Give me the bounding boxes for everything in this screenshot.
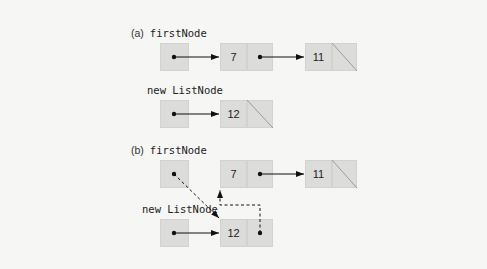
part-a-node-7-next [247,43,273,71]
part-b-node-7-data: 7 [220,160,247,188]
part-b-node-11-data: 11 [305,160,332,188]
part-a-node-11-data: 11 [305,43,332,71]
part-b-newnode-pointer-cell [160,219,189,247]
part-b-firstnode-pointer-cell [160,160,189,188]
part-b-node-12-data: 12 [220,219,247,247]
part-a-newlistnode-label: new ListNode [147,84,223,96]
part-b-newlistnode-label: new ListNode [142,203,218,215]
part-a-node-12-data: 12 [220,100,247,128]
part-b-node-12-next [247,219,273,247]
part-b-tag: (b) [131,144,144,156]
part-b-node-11-null [332,160,357,188]
part-a-tag: (a) [131,27,144,39]
part-a-newnode-pointer-cell [160,100,189,128]
part-b-firstnode-label: (b)firstNode [131,144,207,156]
part-b-node-7-next [247,160,273,188]
part-a-node-7-data: 7 [220,43,247,71]
part-a-node-12-null [247,100,273,128]
part-a-node-11-null [332,43,357,71]
part-a-firstnode-label: (a)firstNode [131,27,207,39]
part-a-firstnode-pointer-cell [160,43,189,71]
